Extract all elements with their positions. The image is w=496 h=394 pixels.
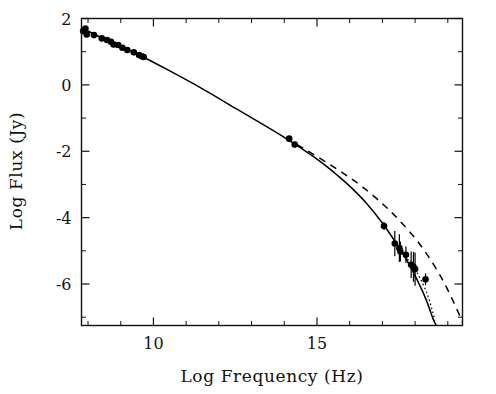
data-point [403,252,410,259]
data-points [80,25,429,286]
plot-frame [82,19,463,326]
plot-canvas: Log Frequency (Hz) Log Flux (Jy) 101520-… [0,0,496,394]
data-point [381,223,388,230]
y-tick-label: -2 [56,142,72,161]
x-tick-label: 15 [307,334,327,353]
axis-tick-labels: 101520-2-4-6 [56,10,327,353]
data-point [412,266,419,273]
data-point [422,276,429,283]
y-tick-label: 2 [61,10,71,29]
y-tick-label: -4 [56,209,72,228]
axis-ticks [82,19,463,326]
y-tick-label: -6 [56,275,72,294]
data-point [91,32,98,39]
data-point [82,25,89,32]
y-tick-label: 0 [61,76,71,95]
y-axis-label: Log Flux (Jy) [6,112,26,230]
data-point [83,31,90,38]
data-point [397,248,404,255]
x-tick-label: 10 [143,334,163,353]
data-point [291,141,298,148]
model-curve-dashed [286,138,463,322]
spectral-energy-distribution-figure: Log Frequency (Hz) Log Flux (Jy) 101520-… [0,0,496,394]
model-curves [82,28,463,326]
model-curve-solid [82,28,437,326]
x-axis-label: Log Frequency (Hz) [180,366,363,386]
data-point [286,135,293,142]
data-point [124,47,131,54]
data-point [140,54,147,61]
